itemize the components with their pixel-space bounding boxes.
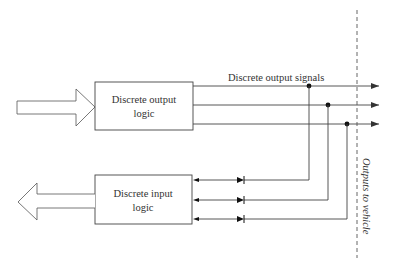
diode-icon [193,196,244,204]
input-logic-block: Discrete input logic [95,175,192,224]
output-signal-lines [193,86,379,124]
feedback-line-2 [244,105,328,200]
discrete-output-signals-label: Discrete output signals [228,72,324,83]
input-arrow-icon [17,89,95,126]
input-logic-label-line2: logic [133,202,154,213]
output-logic-label-line1: Discrete output [112,94,177,105]
output-arrow-icon [18,183,95,220]
feedback-line-3 [244,124,347,219]
input-logic-label-line1: Discrete input [113,188,172,199]
output-logic-block: Discrete output logic [95,82,193,130]
discrete-io-diagram: Discrete output logic Discrete output si… [0,0,396,274]
outputs-to-vehicle-label: Outputs to vehicle [361,158,372,235]
output-logic-label-line2: logic [134,108,155,119]
feedback-line-1 [244,86,309,180]
diode-icon [193,215,244,223]
diode-icon [193,176,244,184]
input-diodes [193,176,244,223]
feedback-lines [244,86,347,219]
